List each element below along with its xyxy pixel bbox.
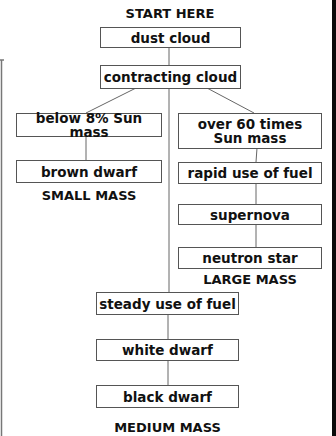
node-rapid-use-of-fuel: rapid use of fuel bbox=[178, 162, 322, 184]
medium-mass-label: MEDIUM MASS bbox=[96, 420, 239, 435]
node-dust-cloud: dust cloud bbox=[100, 27, 241, 48]
node-below-8-percent-sun-mass: below 8% Sun mass bbox=[16, 113, 162, 137]
edge-large-rapid bbox=[256, 148, 257, 162]
right-edge-bar bbox=[332, 0, 336, 436]
edge-contracting-large bbox=[207, 88, 254, 113]
small-mass-label: SMALL MASS bbox=[16, 188, 162, 203]
node-over-60-times-sun-mass: over 60 times Sun mass bbox=[178, 113, 322, 149]
start-here-label: START HERE bbox=[100, 6, 240, 21]
node-white-dwarf: white dwarf bbox=[96, 339, 239, 361]
node-black-dwarf: black dwarf bbox=[96, 385, 239, 408]
node-steady-use-of-fuel: steady use of fuel bbox=[96, 292, 239, 315]
node-contracting-cloud: contracting cloud bbox=[100, 65, 241, 89]
node-supernova: supernova bbox=[178, 204, 322, 225]
node-neutron-star: neutron star bbox=[178, 247, 322, 269]
node-brown-dwarf: brown dwarf bbox=[16, 160, 162, 183]
large-mass-label: LARGE MASS bbox=[178, 272, 322, 287]
star-lifecycle-flowchart: START HERE dust cloud contracting cloud … bbox=[0, 0, 336, 436]
